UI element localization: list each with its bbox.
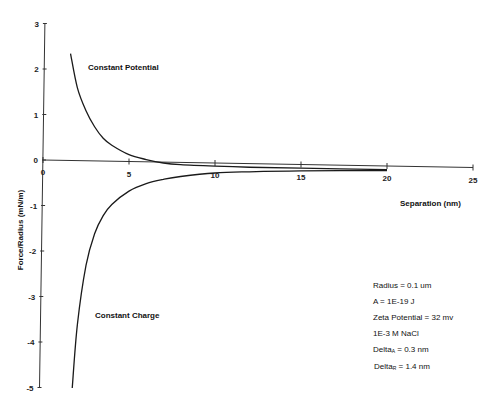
y-tick-label: -2: [29, 247, 37, 256]
y-tick-label: 1: [34, 111, 39, 120]
x-axis: [43, 160, 473, 168]
y-tick-label: -5: [26, 384, 34, 393]
param-hamaker: A = 1E-19 J: [373, 294, 453, 310]
param-delta-a: DeltaA = 0.3 nm: [373, 342, 453, 359]
x-axis-title: Separation (nm): [400, 199, 461, 208]
x-tick-label: 5: [127, 170, 132, 179]
constant-charge-curve: [72, 171, 387, 388]
constant-charge-label: Constant Charge: [95, 311, 160, 320]
param-electrolyte: 1E-3 M NaCl: [373, 326, 453, 342]
x-tick-label: 0: [41, 168, 46, 177]
param-zeta: Zeta Potential = 32 mv: [373, 310, 453, 326]
y-tick-label: -4: [27, 338, 35, 347]
x-tick-label: 20: [383, 174, 392, 183]
x-tick-label: 15: [297, 173, 306, 182]
y-axis-title: Force/Radius (mN/m): [16, 189, 25, 270]
constant-potential-label: Constant Potential: [88, 63, 159, 72]
parameter-box: Radius = 0.1 um A = 1E-19 J Zeta Potenti…: [373, 278, 453, 376]
y-tick-label: 0: [34, 156, 39, 165]
param-delta-r: DeltaR = 1.4 nm: [374, 359, 453, 376]
y-tick-label: 3: [34, 20, 39, 29]
y-tick-label: -1: [30, 202, 38, 211]
param-radius: Radius = 0.1 um: [373, 278, 453, 294]
y-tick-label: 2: [34, 65, 39, 74]
x-tick-label: 25: [469, 176, 478, 185]
y-tick-label: -3: [28, 293, 36, 302]
